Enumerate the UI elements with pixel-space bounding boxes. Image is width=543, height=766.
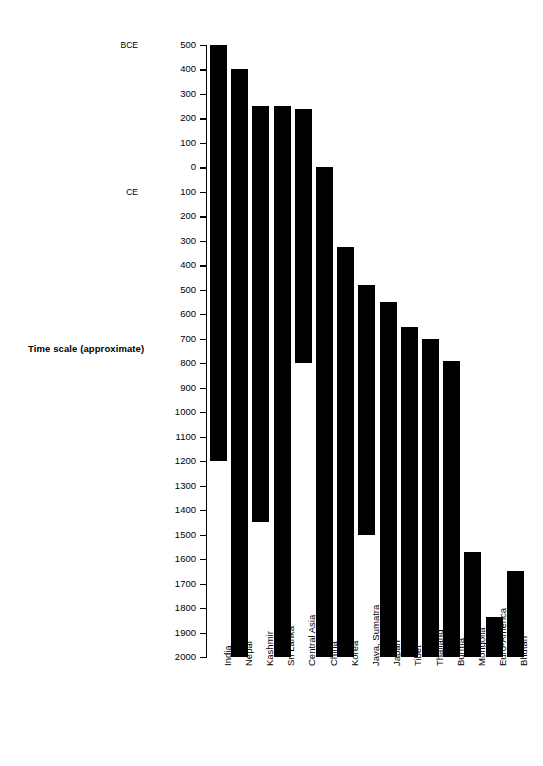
- bar-korea: [337, 247, 354, 657]
- y-tick-label: 1900: [144, 628, 196, 638]
- y-tick-label: 200: [144, 211, 196, 221]
- bar-kashmir: [252, 106, 269, 522]
- bar-nepal: [231, 69, 248, 657]
- x-axis-label-tibet: Tibet: [413, 645, 423, 666]
- x-axis-label-bhutan: Bhutan: [519, 636, 529, 666]
- x-axis-label-central-asia: Central Asia: [307, 615, 317, 666]
- y-tick-label: 500: [144, 40, 196, 50]
- y-tick-label: 2000: [144, 652, 196, 662]
- y-axis-title: Time scale (approximate): [28, 343, 144, 354]
- x-axis-label-thailand: Thailand: [435, 630, 445, 666]
- y-tick-label: 0: [144, 162, 196, 172]
- y-tick-label: 900: [144, 383, 196, 393]
- bar-java-sumatra: [358, 285, 375, 535]
- y-tick-label: 100: [144, 138, 196, 148]
- y-axis-line: [206, 45, 207, 658]
- y-tick-label: 400: [144, 64, 196, 74]
- y-tick-label: 500: [144, 285, 196, 295]
- bar-sri-lanka: [274, 106, 291, 657]
- y-tick-label: 600: [144, 309, 196, 319]
- bar-india: [210, 45, 227, 461]
- bar-thailand: [422, 339, 439, 657]
- y-tick-label: 1700: [144, 579, 196, 589]
- y-tick-label: 300: [144, 89, 196, 99]
- y-tick-label: 1800: [144, 603, 196, 613]
- x-axis-label-china: China: [329, 641, 339, 666]
- x-axis-label-japan: Japan: [392, 640, 402, 666]
- x-axis-label-mongolia: Mongolia: [477, 627, 487, 666]
- x-axis-label-euro-america: Euro-America: [498, 608, 508, 666]
- era-label-bce: BCE: [94, 41, 138, 50]
- x-axis-label-kashmir: Kashmir: [265, 631, 275, 666]
- x-axis-label-sri-lanka: Sri Lanka: [286, 626, 296, 666]
- y-tick-label: 1200: [144, 456, 196, 466]
- x-axis-label-java-sumatra: Java, Sumatra: [371, 605, 381, 666]
- bar-japan: [380, 302, 397, 657]
- x-axis-label-india: India: [223, 645, 233, 666]
- x-axis-label-korea: Korea: [350, 641, 360, 666]
- y-tick-label: 200: [144, 113, 196, 123]
- y-tick-label: 1500: [144, 530, 196, 540]
- buddhism-spread-timeline-chart: Time scale (approximate) 500BCE400300200…: [0, 0, 543, 766]
- bar-china: [316, 167, 333, 657]
- x-axis-label-burma: Burma: [456, 638, 466, 666]
- y-tick-label: 700: [144, 334, 196, 344]
- y-tick-label: 1400: [144, 505, 196, 515]
- y-tick-label: 1100: [144, 432, 196, 442]
- y-tick-label: 100: [144, 187, 196, 197]
- y-tick-label: 300: [144, 236, 196, 246]
- y-tick-label: 1000: [144, 407, 196, 417]
- x-axis-label-nepal: Nepal: [244, 641, 254, 666]
- bar-central-asia: [295, 109, 312, 364]
- y-tick-label: 800: [144, 358, 196, 368]
- era-label-ce: CE: [94, 188, 138, 197]
- y-tick-label: 400: [144, 260, 196, 270]
- y-tick-label: 1300: [144, 481, 196, 491]
- y-tick-label: 1600: [144, 554, 196, 564]
- bar-tibet: [401, 327, 418, 657]
- bar-burma: [443, 361, 460, 657]
